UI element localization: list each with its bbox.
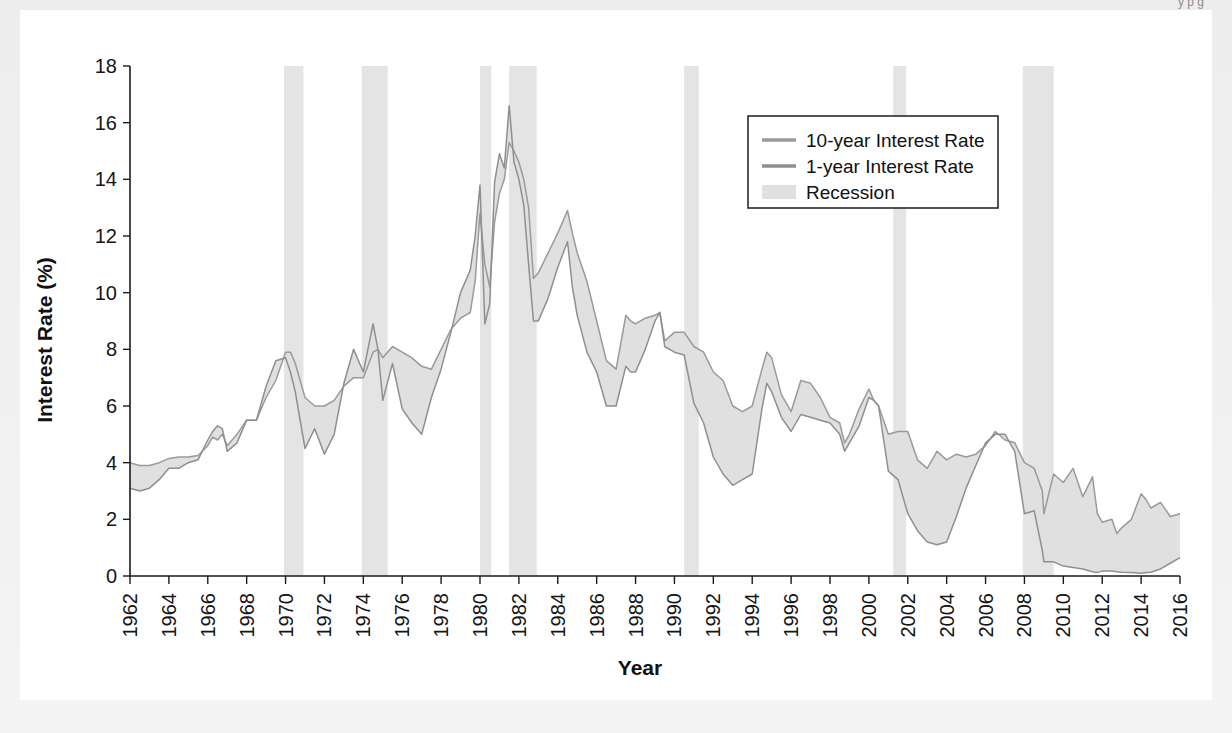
chart-legend[interactable]: 10-year Interest Rate1-year Interest Rat…: [748, 116, 998, 208]
y-axis-title: Interest Rate (%): [33, 257, 56, 423]
x-tick-label: 1982: [508, 593, 530, 638]
x-tick-label: 1986: [586, 593, 608, 638]
y-tick-label: 2: [106, 508, 117, 530]
figure-card: 1962196419661968197019721974197619781980…: [20, 10, 1212, 700]
x-tick-label: 2010: [1052, 593, 1074, 638]
x-tick-label: 2000: [858, 593, 880, 638]
x-tick-label: 1980: [469, 593, 491, 638]
x-tick-label: 1996: [780, 593, 802, 638]
y-tick-label: 16: [95, 112, 117, 134]
x-tick-label: 1976: [391, 593, 413, 638]
x-tick-label: 1974: [352, 593, 374, 638]
interest-rate-chart: 1962196419661968197019721974197619781980…: [20, 10, 1212, 700]
x-tick-label: 1998: [819, 593, 841, 638]
legend-label[interactable]: 10-year Interest Rate: [806, 130, 984, 151]
x-tick-label: 2004: [936, 593, 958, 638]
x-tick-label: 1990: [663, 593, 685, 638]
x-tick-label: 1968: [236, 593, 258, 638]
figure-caption: y p g: [0, 0, 1232, 9]
y-tick-labels-group: 024681012141618: [95, 55, 117, 587]
y-tick-label: 14: [95, 168, 117, 190]
x-tick-label: 1994: [741, 593, 763, 638]
y-tick-label: 4: [106, 452, 117, 474]
x-tick-label: 2012: [1091, 593, 1113, 638]
y-tick-label: 10: [95, 282, 117, 304]
x-tick-label: 1992: [702, 593, 724, 638]
x-tick-label: 2006: [975, 593, 997, 638]
recession-band: [684, 66, 699, 576]
x-tick-label: 2014: [1130, 593, 1152, 638]
x-tick-label: 1962: [119, 593, 141, 638]
x-tick-label: 1978: [430, 593, 452, 638]
x-tick-labels-group: 1962196419661968197019721974197619781980…: [119, 593, 1191, 638]
y-tick-label: 8: [106, 338, 117, 360]
recession-band: [284, 66, 303, 576]
x-tick-label: 1964: [158, 593, 180, 638]
y-tick-label: 0: [106, 565, 117, 587]
y-tick-label: 12: [95, 225, 117, 247]
x-tick-label: 2008: [1013, 593, 1035, 638]
x-tick-label: 1970: [275, 593, 297, 638]
y-tick-label: 6: [106, 395, 117, 417]
recession-band: [509, 66, 537, 576]
x-tick-label: 1984: [547, 593, 569, 638]
x-tick-label: 1966: [197, 593, 219, 638]
legend-label[interactable]: Recession: [806, 182, 895, 203]
legend-label[interactable]: 1-year Interest Rate: [806, 156, 974, 177]
x-tick-label: 1988: [625, 593, 647, 638]
y-tick-label: 18: [95, 55, 117, 77]
x-tick-label: 1972: [313, 593, 335, 638]
x-axis-title: Year: [618, 656, 662, 679]
x-tick-label: 2002: [897, 593, 919, 638]
legend-patch-marker: [762, 185, 796, 199]
recession-band: [362, 66, 388, 576]
x-tick-label: 2016: [1169, 593, 1191, 638]
